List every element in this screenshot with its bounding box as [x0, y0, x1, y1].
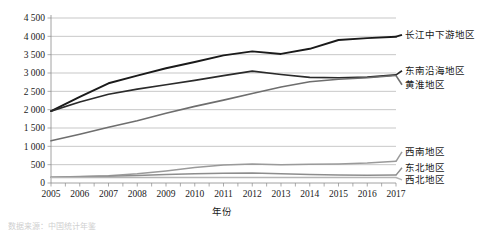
figure-caption: 数据来源：中国统计年鉴	[8, 222, 96, 230]
y-tick-label: 3 000	[24, 68, 46, 78]
data-series-lines	[51, 37, 396, 178]
y-tick-label: 4 500	[24, 13, 46, 23]
x-tick-label: 2016	[358, 189, 377, 199]
x-tick-label: 2017	[387, 189, 406, 199]
chart-figure: 05001 0001 5002 0002 5003 0003 5004 0004…	[0, 0, 488, 230]
x-tick-label: 2010	[185, 189, 204, 199]
series-label: 西北地区	[405, 174, 445, 185]
x-axis-tick-labels: 2005200620072008200920102011201220132014…	[42, 189, 406, 199]
x-tick-label: 2009	[157, 189, 176, 199]
x-tick-label: 2011	[214, 189, 233, 199]
series-label-leader	[396, 71, 402, 75]
x-axis-tick-marks	[51, 183, 396, 187]
x-tick-label: 2007	[99, 189, 118, 199]
series-inline-labels: 长江中下游地区东南沿海地区黄淮地区西南地区东北地区西北地区	[396, 29, 475, 185]
series-label: 东北地区	[405, 162, 445, 173]
series-label-leader	[396, 35, 402, 37]
series-label-leader	[396, 152, 402, 162]
x-tick-label: 2013	[272, 189, 291, 199]
series-label-leader	[396, 168, 402, 175]
series-label: 东南沿海地区	[405, 65, 465, 76]
y-tick-label: 3 500	[24, 50, 46, 60]
series-label-leader	[396, 76, 402, 85]
x-tick-label: 2008	[128, 189, 147, 199]
series-label-leader	[396, 178, 402, 180]
x-tick-label: 2015	[329, 189, 348, 199]
y-tick-label: 2 000	[24, 105, 46, 115]
y-tick-label: 1 500	[24, 123, 46, 133]
series-label: 长江中下游地区	[405, 29, 475, 40]
y-tick-label: 1 000	[24, 142, 46, 152]
y-axis-tick-labels: 05001 0001 5002 0002 5003 0003 5004 0004…	[24, 13, 46, 188]
line-chart: 05001 0001 5002 0002 5003 0003 5004 0004…	[0, 0, 488, 230]
x-tick-label: 2012	[243, 189, 262, 199]
y-tick-label: 0	[40, 178, 45, 188]
series-label: 黄淮地区	[405, 79, 445, 90]
y-tick-label: 500	[31, 160, 46, 170]
x-tick-label: 2006	[70, 189, 89, 199]
series-label: 西南地区	[405, 146, 445, 157]
y-tick-label: 2 500	[24, 87, 46, 97]
x-axis-title: 年份	[212, 206, 232, 217]
x-tick-label: 2005	[42, 189, 61, 199]
y-tick-label: 4 000	[24, 32, 46, 42]
x-tick-label: 2014	[300, 189, 319, 199]
